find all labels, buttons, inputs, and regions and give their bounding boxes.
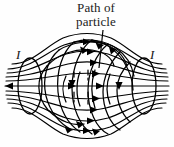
- field-line-down-4: [8, 103, 166, 131]
- particle-inner-2: [77, 72, 80, 106]
- particle-loop-3b: [74, 40, 134, 76]
- figure-container: Path of particle I I: [0, 0, 174, 147]
- current-label-left: I: [16, 48, 20, 61]
- callout-line-2: particle: [58, 15, 134, 29]
- particle-inner-4: [107, 74, 110, 104]
- callout-label: Path of particle: [58, 1, 134, 28]
- callout-line-1: Path of: [77, 0, 115, 15]
- particle-inner-1: [63, 76, 66, 102]
- field-arrow-axis-left: [5, 82, 13, 89]
- current-label-right: I: [150, 48, 154, 61]
